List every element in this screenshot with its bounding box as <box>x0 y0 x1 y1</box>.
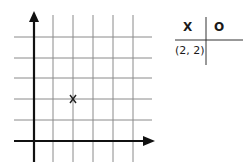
table-header-x: X <box>183 20 192 34</box>
y-axis <box>29 11 39 162</box>
table-header-o: O <box>214 20 224 34</box>
coordinate-grid <box>0 0 243 167</box>
arrow-right-icon <box>143 136 155 146</box>
arrow-up-icon <box>29 11 39 22</box>
table-cell-x-row1: (2, 2) <box>175 44 205 57</box>
x-axis <box>14 136 155 146</box>
